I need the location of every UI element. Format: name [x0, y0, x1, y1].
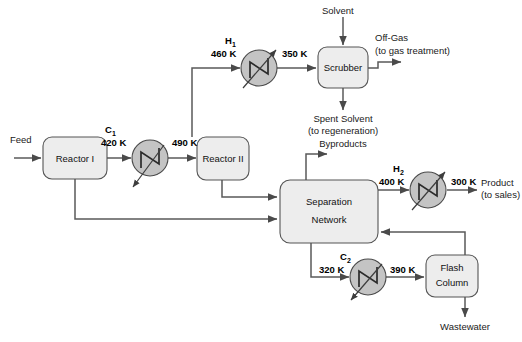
label-exchanger-h2-tag: H2	[393, 163, 404, 176]
label-temp-460: 460 K	[211, 48, 236, 59]
heat-exchanger-c2[interactable]	[350, 259, 386, 300]
label-exchanger-c2-tag: C2	[340, 251, 351, 264]
label-off-gas-line1: Off-Gas	[375, 32, 408, 43]
label-spent-solvent-line1: Spent Solvent	[313, 113, 373, 124]
label-product-line2: (to sales)	[481, 189, 520, 200]
stream-line-reactor2-to-h1	[192, 68, 240, 137]
unit-separation-network-label-line2: Network	[312, 214, 347, 225]
label-temp-420: 420 K	[101, 137, 126, 148]
label-feed: Feed	[10, 134, 32, 145]
heat-exchanger-h2[interactable]	[410, 172, 446, 210]
process-flow-diagram: Reactor I Reactor II Scrubber Separation…	[0, 0, 522, 342]
label-exchanger-h1-tag: H1	[225, 35, 236, 48]
label-temp-300: 300 K	[451, 176, 476, 187]
unit-scrubber-label: Scrubber	[324, 62, 363, 73]
label-off-gas-line2: (to gas treatment)	[375, 45, 450, 56]
label-wastewater: Wastewater	[440, 321, 490, 332]
label-product-line1: Product	[481, 177, 514, 188]
unit-reactor-1[interactable]: Reactor I	[43, 137, 107, 179]
unit-scrubber[interactable]: Scrubber	[318, 47, 368, 88]
stream-line-scrubber-to-offgas	[368, 62, 401, 68]
unit-separation-network[interactable]: Separation Network	[280, 180, 378, 243]
stream-line-reactor2-to-separation	[222, 180, 277, 197]
label-spent-solvent-line2: (to regeneration)	[308, 125, 378, 136]
label-temp-350: 350 K	[282, 48, 307, 59]
heat-exchanger-h1[interactable]	[241, 50, 277, 88]
label-byproducts: Byproducts	[319, 138, 367, 149]
unit-separation-network-label-line1: Separation	[306, 196, 352, 207]
stream-line-reactor1-to-separation	[75, 179, 277, 219]
unit-flash-column-label-line2: Column	[436, 277, 469, 288]
label-solvent: Solvent	[322, 5, 354, 16]
unit-reactor-2[interactable]: Reactor II	[197, 137, 249, 180]
unit-flash-column-label-line1: Flash	[440, 262, 463, 273]
unit-reactor-2-label: Reactor II	[202, 153, 243, 164]
label-temp-390: 390 K	[390, 264, 415, 275]
label-temp-320: 320 K	[319, 264, 344, 275]
unit-reactor-1-label: Reactor I	[56, 153, 95, 164]
label-temp-400: 400 K	[379, 176, 404, 187]
label-temp-490: 490 K	[172, 137, 197, 148]
heat-exchanger-c1[interactable]	[132, 140, 168, 187]
unit-flash-column[interactable]: Flash Column	[426, 255, 478, 297]
stream-line-separation-to-byproducts	[306, 154, 327, 180]
stream-line-flash-recycle-to-separation	[381, 232, 465, 255]
label-exchanger-c1-tag: C1	[105, 124, 116, 137]
